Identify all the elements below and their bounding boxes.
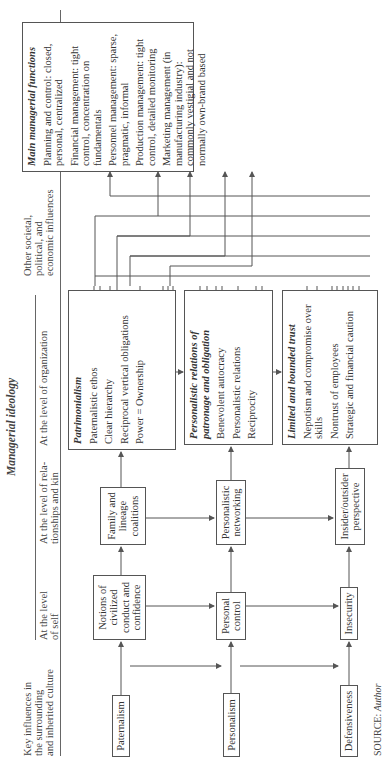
limited-trust-title: Limited and bounded trust xyxy=(286,296,298,439)
patrimonialism-item: Clear hierarchy xyxy=(103,296,115,444)
box-personalism: Personalism xyxy=(223,693,240,757)
box-personalistic-relations: Personalistic relations of patronage and… xyxy=(184,290,273,445)
box-family-lineage-coalitions: Family and lineage coalitions xyxy=(100,487,146,545)
box-personal-control: Personal control xyxy=(216,592,246,640)
box-insecurity: Insecurity xyxy=(340,587,358,640)
function-item: Personnel management: sparse, pragmatic,… xyxy=(107,28,130,166)
functions-title: Main managerial functions xyxy=(26,28,38,166)
function-item: Production management: tight control, de… xyxy=(134,28,157,166)
box-notions-civilized-conduct: Notions of civilized conduct and confide… xyxy=(93,575,146,640)
box-patrimonialism: Patrimonialism Paternalistic ethos Clear… xyxy=(68,290,176,450)
personalistic-relations-item: Personalistic relations xyxy=(231,296,243,439)
patrimonialism-item: Paternalistic ethos xyxy=(88,296,100,444)
personalistic-relations-item: Benevolent autocracy xyxy=(215,296,227,439)
source-value: Author xyxy=(372,683,383,711)
box-insider-outsider: Insider/outsider perspective xyxy=(335,468,365,545)
patrimonialism-item: Reciprocal vertical obligations xyxy=(119,296,131,444)
limited-trust-item: Nontrust of employees xyxy=(329,296,341,439)
source-note: SOURCE: Author xyxy=(372,683,383,756)
source-label: SOURCE: xyxy=(372,714,383,756)
box-main-managerial-functions: Main managerial functions Planning and c… xyxy=(22,22,194,172)
function-item: Planning and control: closed, personal, … xyxy=(42,28,65,166)
personalistic-relations-item: Reciprocity xyxy=(246,296,258,439)
limited-trust-item: Strategic and financial caution xyxy=(344,296,356,439)
limited-trust-item: Nepotism and compromise over skills xyxy=(302,296,325,439)
patrimonialism-item: Power = Ownership xyxy=(134,296,146,444)
function-item: Financial management: tight control, con… xyxy=(69,28,104,166)
box-paternalism: Paternalism xyxy=(112,695,130,757)
box-limited-bounded-trust: Limited and bounded trust Nepotism and c… xyxy=(282,290,378,445)
patrimonialism-title: Patrimonialism xyxy=(72,296,84,444)
diagram-canvas: Key influences in the surrounding and in… xyxy=(0,0,390,776)
box-defensiveness: Defensiveness xyxy=(340,685,358,757)
box-personalistic-networking: Personalistic networking xyxy=(216,480,246,545)
personalistic-relations-title: Personalistic relations of patronage and… xyxy=(188,296,211,439)
function-item: Marketing management (in manufacturing i… xyxy=(161,28,207,166)
